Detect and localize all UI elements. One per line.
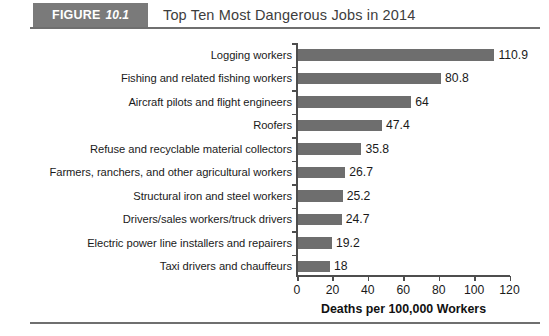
y-axis-tick [292, 231, 297, 233]
y-axis-tick [292, 137, 297, 139]
x-axis-tick-label: 0 [294, 283, 301, 297]
category-label: Drivers/sales workers/truck drivers [0, 208, 292, 232]
bar-value-label: 64 [415, 90, 429, 114]
y-axis-tick [292, 43, 297, 45]
x-axis-tick [368, 276, 370, 281]
bar-value-label: 80.8 [445, 67, 469, 91]
bar-value-label: 26.7 [349, 161, 373, 185]
bar-row: Roofers47.4 [0, 114, 549, 138]
x-axis-tick [332, 276, 334, 281]
category-label: Farmers, ranchers, and other agricultura… [0, 161, 292, 185]
x-axis-tick [510, 276, 512, 281]
bar-row: Electric power line installers and repai… [0, 231, 549, 255]
category-label: Fishing and related fishing workers [0, 67, 292, 91]
bar-value-label: 18 [334, 255, 348, 279]
x-axis-tick [403, 276, 405, 281]
x-axis-tick-label: 100 [464, 283, 484, 297]
y-axis-tick [292, 90, 297, 92]
bar-row: Refuse and recyclable material collector… [0, 137, 549, 161]
y-axis-tick [292, 161, 297, 163]
bar-value-label: 19.2 [336, 231, 360, 255]
bar-row: Aircraft pilots and flight engineers64 [0, 90, 549, 114]
bar [298, 96, 411, 108]
y-axis-tick [292, 208, 297, 210]
bar [298, 73, 441, 85]
x-axis-tick [474, 276, 476, 281]
x-axis-title: Deaths per 100,000 Workers [297, 302, 510, 316]
bar-row: Taxi drivers and chauffeurs18 [0, 255, 549, 279]
bar [298, 143, 361, 155]
bar-row: Farmers, ranchers, and other agricultura… [0, 161, 549, 185]
category-label: Refuse and recyclable material collector… [0, 137, 292, 161]
bar-value-label: 35.8 [365, 137, 389, 161]
x-axis-tick-label: 20 [326, 283, 340, 297]
y-axis-tick [292, 114, 297, 116]
x-axis-tick-label: 80 [432, 283, 446, 297]
figure-header: FIGURE 10.1 Top Ten Most Dangerous Jobs … [0, 0, 549, 30]
y-axis-tick [292, 184, 297, 186]
figure-title: Top Ten Most Dangerous Jobs in 2014 [163, 3, 415, 27]
bar [298, 261, 330, 273]
x-axis-tick-label: 60 [396, 283, 410, 297]
bar [298, 167, 345, 179]
bar-value-label: 110.9 [498, 43, 528, 67]
category-label: Roofers [0, 114, 292, 138]
x-axis-tick [439, 276, 441, 281]
bar [298, 120, 382, 132]
bar [298, 190, 343, 202]
x-axis-tick-label: 40 [361, 283, 375, 297]
bar [298, 214, 342, 226]
category-label: Electric power line installers and repai… [0, 231, 292, 255]
x-axis-tick-label: 120 [499, 283, 519, 297]
bar-row: Drivers/sales workers/truck drivers24.7 [0, 208, 549, 232]
bar-chart: Logging workers110.9Fishing and related … [0, 40, 549, 330]
bar [298, 237, 332, 249]
figure-badge-number: 10.1 [106, 8, 129, 22]
bar-value-label: 25.2 [347, 184, 371, 208]
bar-row: Fishing and related fishing workers80.8 [0, 67, 549, 91]
figure-number-badge: FIGURE 10.1 [33, 3, 148, 27]
figure-badge-keyword: FIGURE [52, 8, 100, 22]
x-axis-tick [297, 276, 299, 281]
bar-value-label: 47.4 [386, 114, 410, 138]
bar [298, 49, 494, 61]
bar-value-label: 24.7 [346, 208, 370, 232]
header-divider-top [30, 27, 540, 29]
category-label: Aircraft pilots and flight engineers [0, 90, 292, 114]
y-axis-tick [292, 255, 297, 257]
category-label: Taxi drivers and chauffeurs [0, 255, 292, 279]
category-label: Logging workers [0, 43, 292, 67]
bar-row: Logging workers110.9 [0, 43, 549, 67]
category-label: Structural iron and steel workers [0, 184, 292, 208]
y-axis-tick [292, 67, 297, 69]
footer-divider-bottom [30, 322, 540, 324]
bar-row: Structural iron and steel workers25.2 [0, 184, 549, 208]
